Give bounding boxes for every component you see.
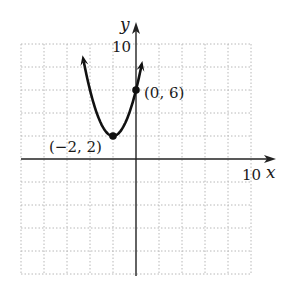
vertex-label: (−2, 2) bbox=[49, 140, 102, 155]
coordinate-plane bbox=[0, 0, 294, 287]
graph: y 10 10 x (−2, 2) (0, 6) bbox=[0, 0, 294, 287]
y-axis-label: y bbox=[120, 16, 130, 33]
x-tick-label: 10 bbox=[242, 168, 261, 183]
y-tick-label: 10 bbox=[112, 40, 131, 55]
data-point bbox=[109, 132, 117, 140]
intercept-label: (0, 6) bbox=[144, 86, 184, 101]
data-point bbox=[132, 86, 140, 94]
parabola-curve bbox=[84, 61, 141, 136]
x-axis-label: x bbox=[266, 164, 276, 181]
